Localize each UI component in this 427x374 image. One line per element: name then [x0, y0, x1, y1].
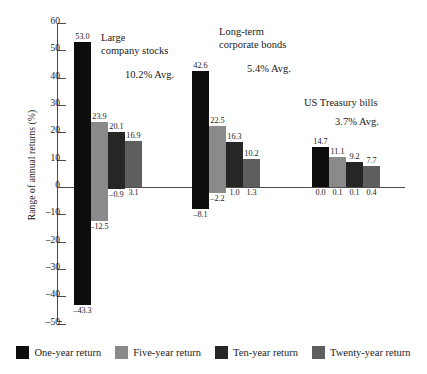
- bar: [91, 122, 108, 221]
- y-axis-tick-label: –40: [20, 289, 60, 299]
- y-axis-tick-label: 40: [20, 71, 60, 81]
- bar-max-label: 22.5: [205, 116, 231, 125]
- legend-label: One-year return: [34, 347, 101, 358]
- bar-max-label: 16.3: [222, 132, 248, 141]
- bar-min-label: 1.3: [239, 188, 265, 197]
- bar: [346, 162, 363, 187]
- bar-max-label: 23.9: [87, 112, 113, 121]
- legend-item: One-year return: [16, 346, 101, 359]
- y-axis-tick-label: 30: [20, 98, 60, 108]
- group-average-label: 5.4% Avg.: [247, 63, 291, 74]
- y-axis-tick-label: –50: [20, 317, 60, 327]
- group-average-label: 3.7% Avg.: [335, 116, 379, 127]
- y-axis-tick-label: –30: [20, 262, 60, 272]
- group-title-line: Large: [101, 32, 168, 45]
- y-axis-tick-label: 50: [20, 43, 60, 53]
- bar: [363, 166, 380, 187]
- legend-item: Ten-year return: [215, 346, 298, 359]
- plot-area: 53.0–43.323.9–12.520.1–0.916.93.142.6–8.…: [57, 14, 427, 334]
- bar-max-label: 10.2: [239, 149, 265, 158]
- group-title-line: Long-term: [219, 26, 286, 39]
- y-axis-tick-label: 60: [20, 16, 60, 26]
- y-axis-tick-label: 0: [20, 180, 60, 190]
- bar-min-label: 3.1: [121, 188, 147, 197]
- legend-item: Twenty-year return: [312, 346, 411, 359]
- legend-item: Five-year return: [115, 346, 201, 359]
- returns-range-bar-chart: Range of annual returns (%) 605040302010…: [0, 0, 427, 374]
- chart-legend: One-year returnFive-year returnTen-year …: [0, 341, 427, 363]
- group-title-line: US Treasury bills: [304, 97, 378, 110]
- bar-max-label: 7.7: [359, 156, 385, 165]
- bar: [243, 159, 260, 187]
- bar: [74, 42, 91, 305]
- group-title-line: company stocks: [101, 45, 168, 58]
- legend-swatch-icon: [16, 346, 29, 359]
- bar-max-label: 20.1: [104, 122, 130, 131]
- legend-swatch-icon: [115, 346, 128, 359]
- legend-label: Five-year return: [133, 347, 201, 358]
- bar-max-label: 42.6: [188, 61, 214, 70]
- group-title: Long-termcorporate bonds: [219, 26, 286, 51]
- legend-swatch-icon: [312, 346, 325, 359]
- bar-max-label: 53.0: [70, 32, 96, 41]
- group-average-label: 10.2% Avg.: [125, 69, 174, 80]
- group-title: US Treasury bills: [304, 97, 378, 110]
- bar-max-label: 16.9: [121, 131, 147, 140]
- bar: [192, 71, 209, 210]
- group-title: Largecompany stocks: [101, 32, 168, 57]
- group-title-line: corporate bonds: [219, 39, 286, 52]
- y-axis-tick-label: –20: [20, 235, 60, 245]
- bar: [108, 132, 125, 189]
- bar-min-label: 0.4: [359, 188, 385, 197]
- bar: [125, 141, 142, 187]
- y-axis-tick-label: –10: [20, 207, 60, 217]
- legend-label: Ten-year return: [233, 347, 298, 358]
- bar-min-label: –43.3: [70, 306, 96, 315]
- y-axis-tick-label: 10: [20, 153, 60, 163]
- bar-max-label: 14.7: [308, 137, 334, 146]
- legend-swatch-icon: [215, 346, 228, 359]
- y-axis-tick-label: 20: [20, 125, 60, 135]
- bar-min-label: –12.5: [87, 222, 113, 231]
- bar-min-label: –8.1: [188, 210, 214, 219]
- bar: [329, 157, 346, 187]
- legend-label: Twenty-year return: [330, 347, 411, 358]
